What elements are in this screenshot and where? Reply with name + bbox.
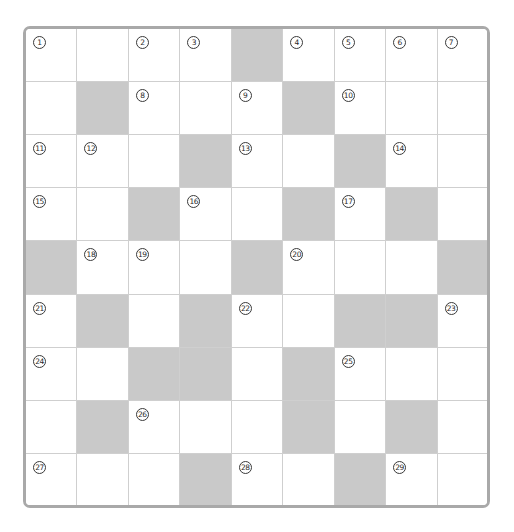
answer-cell[interactable] [438,135,489,188]
block-cell [180,454,231,507]
answer-cell[interactable] [77,188,128,241]
answer-cell[interactable]: 6 [386,29,437,82]
answer-cell[interactable]: 11 [26,135,77,188]
answer-cell[interactable] [232,401,283,454]
answer-cell[interactable] [386,82,437,135]
answer-cell[interactable] [129,454,180,507]
answer-cell[interactable]: 5 [335,29,386,82]
block-cell [386,295,437,348]
block-cell [232,29,283,82]
answer-cell[interactable] [77,29,128,82]
answer-cell[interactable] [129,135,180,188]
clue-number: 1 [33,36,46,49]
answer-cell[interactable] [129,295,180,348]
clue-number: 3 [187,36,200,49]
block-cell [129,348,180,401]
answer-cell[interactable]: 22 [232,295,283,348]
answer-cell[interactable]: 20 [283,241,334,294]
clue-number: 24 [33,355,46,368]
clue-number: 18 [84,248,97,261]
answer-cell[interactable]: 25 [335,348,386,401]
answer-cell[interactable]: 7 [438,29,489,82]
answer-cell[interactable]: 1 [26,29,77,82]
answer-cell[interactable] [438,82,489,135]
clue-number: 16 [187,195,200,208]
answer-cell[interactable]: 15 [26,188,77,241]
block-cell [335,295,386,348]
answer-cell[interactable]: 12 [77,135,128,188]
answer-cell[interactable]: 8 [129,82,180,135]
clue-number: 20 [290,248,303,261]
block-cell [335,135,386,188]
clue-number: 19 [136,248,149,261]
answer-cell[interactable] [77,348,128,401]
answer-cell[interactable]: 23 [438,295,489,348]
block-cell [283,188,334,241]
answer-cell[interactable]: 26 [129,401,180,454]
answer-cell[interactable]: 16 [180,188,231,241]
crossword-frame: 1234567891011121314151617181920212223242… [23,26,490,508]
answer-cell[interactable]: 13 [232,135,283,188]
block-cell [335,454,386,507]
answer-cell[interactable] [77,454,128,507]
answer-cell[interactable] [438,454,489,507]
clue-number: 29 [393,461,406,474]
clue-number: 13 [239,142,252,155]
answer-cell[interactable]: 24 [26,348,77,401]
answer-cell[interactable] [438,348,489,401]
block-cell [438,241,489,294]
clue-number: 4 [290,36,303,49]
block-cell [386,401,437,454]
clue-number: 11 [33,142,46,155]
block-cell [386,188,437,241]
clue-number: 26 [136,408,149,421]
clue-number: 21 [33,302,46,315]
answer-cell[interactable] [438,401,489,454]
clue-number: 6 [393,36,406,49]
clue-number: 17 [342,195,355,208]
clue-number: 23 [445,302,458,315]
answer-cell[interactable]: 17 [335,188,386,241]
answer-cell[interactable]: 14 [386,135,437,188]
answer-cell[interactable]: 19 [129,241,180,294]
answer-cell[interactable]: 27 [26,454,77,507]
answer-cell[interactable]: 18 [77,241,128,294]
clue-number: 27 [33,461,46,474]
crossword-grid: 1234567891011121314151617181920212223242… [26,29,489,507]
answer-cell[interactable]: 9 [232,82,283,135]
clue-number: 9 [239,89,252,102]
answer-cell[interactable]: 28 [232,454,283,507]
answer-cell[interactable]: 29 [386,454,437,507]
block-cell [77,401,128,454]
answer-cell[interactable] [283,295,334,348]
answer-cell[interactable] [386,241,437,294]
answer-cell[interactable] [232,348,283,401]
block-cell [283,348,334,401]
answer-cell[interactable] [232,188,283,241]
answer-cell[interactable]: 10 [335,82,386,135]
block-cell [77,295,128,348]
block-cell [232,241,283,294]
answer-cell[interactable] [180,241,231,294]
clue-number: 8 [136,89,149,102]
answer-cell[interactable] [180,401,231,454]
clue-number: 28 [239,461,252,474]
answer-cell[interactable] [180,82,231,135]
answer-cell[interactable]: 2 [129,29,180,82]
clue-number: 10 [342,89,355,102]
answer-cell[interactable]: 3 [180,29,231,82]
clue-number: 12 [84,142,97,155]
answer-cell[interactable] [438,188,489,241]
answer-cell[interactable]: 21 [26,295,77,348]
clue-number: 22 [239,302,252,315]
answer-cell[interactable] [335,401,386,454]
answer-cell[interactable] [335,241,386,294]
answer-cell[interactable] [26,82,77,135]
clue-number: 14 [393,142,406,155]
answer-cell[interactable] [386,348,437,401]
answer-cell[interactable] [283,135,334,188]
answer-cell[interactable]: 4 [283,29,334,82]
block-cell [129,188,180,241]
answer-cell[interactable] [283,454,334,507]
answer-cell[interactable] [26,401,77,454]
